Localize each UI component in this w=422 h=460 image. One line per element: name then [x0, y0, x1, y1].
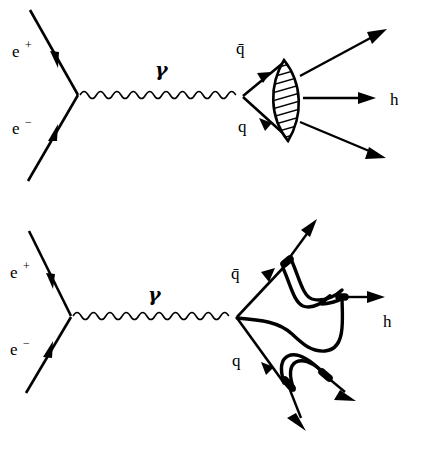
label-positron-charge: +	[25, 38, 32, 52]
positron-arrowhead	[50, 51, 59, 68]
hadron-arrow-middle	[344, 291, 385, 303]
feynman-figure: e + e − γ q̄ q h	[0, 0, 422, 460]
label-photon: γ	[155, 58, 169, 80]
label-positron: e +	[12, 38, 32, 61]
label-antiquark: q̄	[236, 39, 245, 58]
diagram-top-independent-fragmentation: e + e − γ q̄ q h	[0, 0, 422, 200]
hadron-arrow-upper	[300, 29, 387, 76]
label-antiquark: q̄	[231, 264, 240, 283]
label-hadrons: h	[383, 312, 392, 331]
label-hadrons: h	[390, 90, 399, 109]
electron-line	[28, 95, 78, 181]
label-positron-charge: +	[23, 259, 30, 273]
label-quark: q	[232, 351, 241, 370]
electron-arrowhead	[43, 341, 53, 358]
string-loop-upper	[283, 259, 342, 307]
positron-line	[30, 10, 78, 95]
label-photon: γ	[148, 283, 162, 305]
string-cap-upper	[284, 259, 290, 264]
hadron-arrow-lower	[300, 122, 386, 159]
photon-propagator	[80, 92, 236, 99]
hadron-arrow-lower-down	[287, 390, 306, 431]
quark-line	[237, 318, 284, 383]
label-quark: q	[238, 117, 247, 136]
label-electron-symbol: e	[12, 119, 20, 138]
string-loop-middle	[237, 296, 342, 351]
label-electron: e −	[10, 336, 30, 359]
quark-arrowhead	[261, 362, 274, 375]
string-loop-lower	[281, 355, 329, 390]
label-electron-charge: −	[25, 115, 32, 129]
positron-line	[29, 231, 71, 316]
string-cap-lower-left	[285, 380, 292, 388]
diagram-bottom-string-fragmentation: e + e − γ q̄ q h	[0, 200, 422, 460]
hadron-arrow-upper	[290, 219, 317, 257]
label-positron-symbol: e	[10, 263, 18, 282]
label-electron-charge: −	[23, 336, 30, 350]
label-electron: e −	[12, 115, 32, 138]
hadron-arrow-lower-right	[327, 377, 356, 401]
label-positron: e +	[10, 259, 30, 282]
electron-arrowhead	[48, 124, 58, 141]
label-positron-symbol: e	[12, 42, 20, 61]
positron-arrowhead	[46, 273, 55, 289]
electron-line	[26, 317, 71, 393]
hadron-arrow-middle	[303, 92, 376, 104]
photon-propagator	[73, 313, 229, 320]
label-electron-symbol: e	[10, 340, 18, 359]
antiquark-line	[237, 268, 283, 317]
